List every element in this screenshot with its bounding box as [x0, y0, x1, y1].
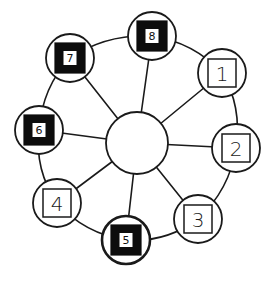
- node-label: 2: [230, 137, 243, 161]
- center-hub: [106, 112, 168, 174]
- node-3: 3: [174, 195, 222, 243]
- node-6: 6: [15, 106, 63, 154]
- node-5: 5: [102, 216, 150, 264]
- node-label: 8: [149, 30, 156, 43]
- node-1: 1: [198, 49, 246, 97]
- node-label: 5: [123, 234, 130, 247]
- node-label: 7: [67, 52, 74, 65]
- node-4: 4: [33, 179, 81, 227]
- node-label: 3: [192, 208, 205, 232]
- node-2: 2: [212, 124, 260, 172]
- node-label: 4: [51, 192, 64, 216]
- wheel-diagram: 12354678: [0, 0, 278, 283]
- node-label: 1: [216, 62, 229, 86]
- node-8: 8: [128, 12, 176, 60]
- node-label: 6: [36, 124, 43, 137]
- node-7: 7: [46, 34, 94, 82]
